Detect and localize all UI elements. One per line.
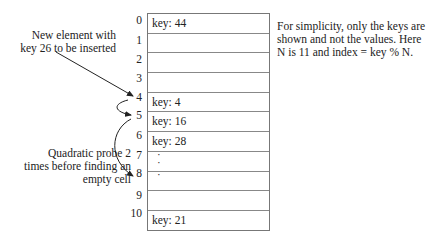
probe-arrow-5-to-8	[115, 119, 133, 176]
insert-arrow	[56, 52, 133, 96]
probe-arrow-4-to-5	[117, 100, 131, 115]
